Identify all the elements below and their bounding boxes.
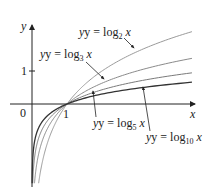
- label-log5-prefix: y = log: [98, 116, 132, 130]
- label-log3-var: x: [83, 47, 92, 61]
- label-log2-var: x: [122, 25, 131, 39]
- label-log3: yy = log3 x: [39, 47, 92, 63]
- arrow-log2: [124, 38, 134, 48]
- y-axis-label: y: [20, 19, 27, 33]
- label-log2-prefix: y = log: [84, 25, 118, 39]
- origin-label: 0: [20, 106, 26, 120]
- label-log10-prefix: y = log: [151, 130, 185, 144]
- chart-canvas: y x 0 1 1 yy = log2 x yy = log3 x yy = l…: [0, 0, 208, 187]
- label-log2: yy = log2 x: [78, 25, 131, 41]
- label-log10-base: 10: [185, 137, 193, 146]
- label-log5: yy = log5 x: [92, 116, 145, 132]
- label-log10: yy = log10 x: [145, 130, 202, 146]
- x-tick-label-1: 1: [63, 107, 69, 121]
- log-functions-chart: y x 0 1 1 yy = log2 x yy = log3 x yy = l…: [0, 0, 208, 187]
- x-axis-label: x: [189, 107, 196, 121]
- y-tick-label-1: 1: [21, 64, 27, 78]
- label-log3-prefix: y = log: [45, 47, 79, 61]
- label-log5-var: x: [136, 116, 145, 130]
- label-log10-var: x: [193, 130, 202, 144]
